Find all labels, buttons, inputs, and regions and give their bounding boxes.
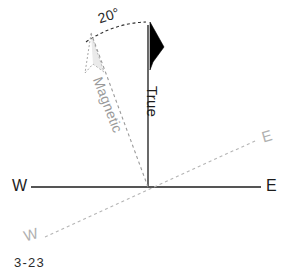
true-north-arrowhead — [150, 22, 164, 70]
true-north-label: True — [145, 86, 160, 117]
cardinal-label-true-east: E — [266, 178, 277, 194]
magnetic-north-arrowhead — [85, 34, 104, 73]
figure-magnetic-declination: 20° True Magnetic W E E W 3-23 — [0, 0, 288, 275]
figure-caption: 3-23 — [14, 256, 45, 269]
magnetic-north-line — [91, 33, 148, 187]
cardinal-label-true-west: W — [12, 178, 27, 194]
declination-arc — [86, 22, 146, 42]
magnetic-east-west-axis-line — [45, 140, 257, 237]
declination-diagram-canvas — [0, 0, 288, 275]
